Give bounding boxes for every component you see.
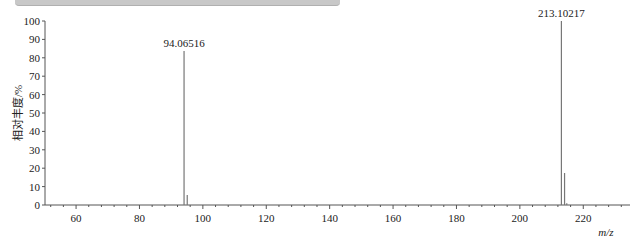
- y-tick-label: 40: [29, 125, 41, 137]
- x-tick-label: 200: [512, 212, 529, 224]
- peak-labels: 94.06516213.10217: [163, 7, 585, 49]
- y-tick-label: 10: [29, 181, 41, 193]
- peak-label: 94.06516: [163, 37, 205, 49]
- x-axis-label: m/z: [598, 226, 614, 238]
- y-tick-label: 0: [35, 199, 41, 211]
- peaks: [184, 21, 567, 205]
- x-tick-label: 100: [195, 212, 212, 224]
- y-tick-label: 50: [29, 107, 41, 119]
- y-tick-label: 70: [29, 70, 41, 82]
- x-tick-label: 220: [575, 212, 592, 224]
- x-tick-label: 160: [385, 212, 402, 224]
- mass-spectrum-chart: 0102030405060708090100608010012014016018…: [0, 0, 642, 245]
- axes: 0102030405060708090100608010012014016018…: [24, 15, 631, 224]
- y-tick-label: 90: [29, 33, 41, 45]
- y-tick-label: 80: [29, 52, 41, 64]
- x-tick-label: 180: [448, 212, 465, 224]
- x-tick-label: 120: [258, 212, 275, 224]
- x-tick-label: 140: [321, 212, 338, 224]
- y-tick-label: 60: [29, 89, 41, 101]
- peak-label: 213.10217: [538, 7, 585, 19]
- x-tick-label: 80: [134, 212, 146, 224]
- x-tick-label: 60: [71, 212, 83, 224]
- y-axis-label: 相对丰度/%: [11, 85, 24, 141]
- y-tick-label: 20: [29, 162, 41, 174]
- y-tick-label: 100: [24, 15, 41, 27]
- y-tick-label: 30: [29, 144, 41, 156]
